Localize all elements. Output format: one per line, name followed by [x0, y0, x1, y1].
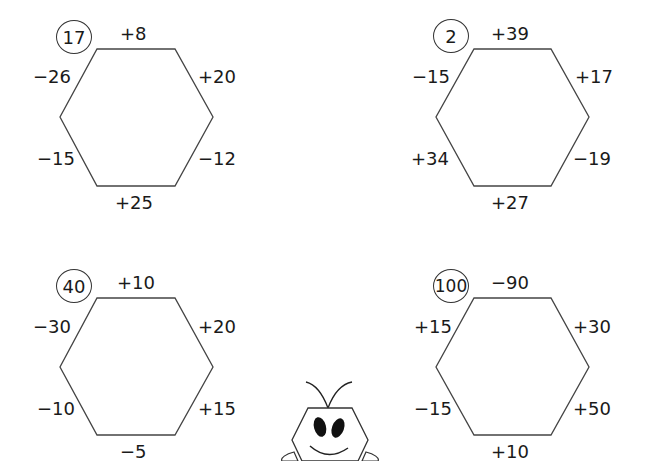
hexagon-puzzle-2: 2 +39 +17 −19 +27 +34 −15 [390, 0, 647, 220]
edge-top-label: −90 [491, 274, 529, 292]
edge-upper-right-label: +17 [575, 68, 613, 86]
edge-bottom-label: +10 [491, 443, 529, 461]
hexagon-puzzle-4: 100 −90 +30 +50 +10 −15 +15 [390, 250, 647, 461]
edge-upper-right-label: +20 [198, 68, 236, 86]
edge-lower-right-label: +50 [573, 400, 611, 418]
edge-upper-left-label: −26 [33, 68, 71, 86]
hexagon-puzzle-1: 17 +8 +20 −12 +25 −15 −26 [0, 0, 260, 220]
edge-bottom-label: +25 [115, 194, 153, 212]
start-number-circle: 40 [56, 269, 92, 303]
edge-bottom-label: −5 [120, 443, 147, 461]
edge-lower-left-label: −15 [37, 150, 75, 168]
edge-top-label: +39 [491, 25, 529, 43]
edge-lower-right-label: +15 [198, 400, 236, 418]
edge-lower-right-label: −19 [573, 150, 611, 168]
edge-upper-right-label: +30 [573, 318, 611, 336]
edge-lower-right-label: −12 [198, 150, 236, 168]
start-number-circle: 2 [433, 19, 469, 53]
edge-upper-left-label: +15 [414, 318, 452, 336]
edge-lower-left-label: −10 [37, 400, 75, 418]
hexagon-bug-mascot-icon [270, 370, 390, 461]
edge-lower-left-label: +34 [411, 150, 449, 168]
start-number-circle: 17 [56, 20, 92, 54]
edge-bottom-label: +27 [491, 194, 529, 212]
edge-upper-right-label: +20 [198, 318, 236, 336]
hexagon-puzzle-3: 40 +10 +20 +15 −5 −10 −30 [0, 250, 260, 461]
start-number-circle: 100 [433, 269, 469, 303]
edge-upper-left-label: −30 [33, 318, 71, 336]
edge-top-label: +10 [117, 274, 155, 292]
edge-lower-left-label: −15 [414, 400, 452, 418]
edge-top-label: +8 [120, 25, 147, 43]
edge-upper-left-label: −15 [412, 68, 450, 86]
